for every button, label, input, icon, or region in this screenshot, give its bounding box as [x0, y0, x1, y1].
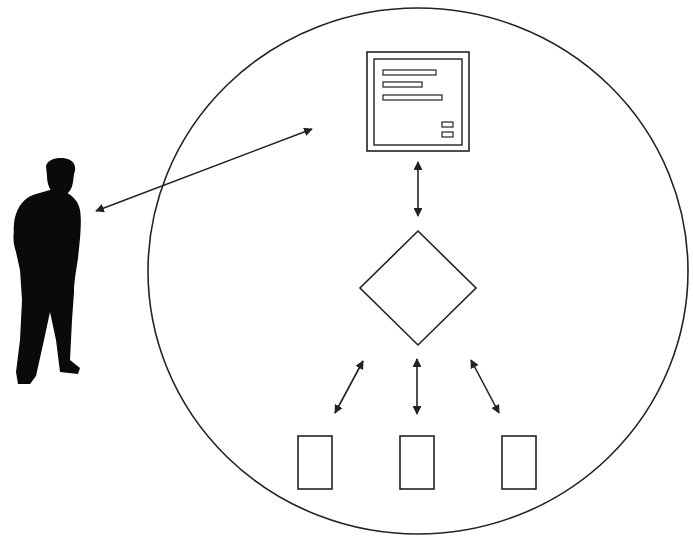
arrow-decision-component-1	[335, 361, 363, 413]
arrow-user-interface	[96, 129, 312, 211]
component-3-box	[502, 436, 536, 489]
user-silhouette-icon	[13, 158, 80, 384]
system-diagram	[0, 0, 693, 540]
arrow-decision-component-3	[471, 360, 499, 413]
text-line-3	[383, 95, 442, 100]
component-2-box	[400, 436, 434, 489]
component-1-box	[298, 436, 332, 489]
text-line-2	[383, 82, 422, 87]
ui-button-2	[442, 132, 453, 137]
interface-window-icon	[367, 52, 469, 151]
text-line-1	[383, 70, 436, 75]
ui-button-1	[442, 122, 453, 127]
decision-diamond	[360, 231, 476, 345]
